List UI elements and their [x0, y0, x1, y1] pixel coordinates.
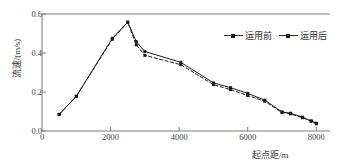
data-point-marker: [179, 63, 182, 66]
x-tick-label: 8000: [296, 132, 336, 142]
x-tick-label: 4000: [159, 132, 199, 142]
data-point-marker: [310, 120, 313, 123]
y-tick-label: 0.6: [20, 10, 42, 18]
x-axis-title: 起点距/m: [252, 148, 289, 161]
data-point-marker: [143, 54, 146, 57]
x-tick-label: 2000: [91, 132, 131, 142]
legend-item-after[interactable]: 运用后: [279, 29, 327, 42]
legend-label-before: 运用前: [245, 29, 272, 42]
legend-label-after: 运用后: [300, 29, 327, 42]
data-point-marker: [212, 83, 215, 86]
legend-item-before[interactable]: 运用前: [224, 29, 272, 42]
data-point-marker: [289, 112, 292, 115]
data-point-marker: [246, 94, 249, 97]
legend-marker-after-icon: [279, 35, 298, 36]
data-point-marker: [315, 122, 318, 125]
data-point-marker: [301, 116, 304, 119]
data-point-marker: [75, 95, 78, 98]
x-tick-label: 0: [22, 132, 62, 142]
data-point-marker: [111, 38, 114, 41]
x-tick-label: 6000: [228, 132, 268, 142]
data-point-marker: [263, 100, 266, 103]
data-point-marker: [281, 111, 284, 114]
x-axis-tick-labels: 02000400060008000: [0, 132, 337, 146]
y-tick-label: 0.2: [20, 88, 42, 96]
data-point-marker: [143, 50, 146, 53]
chart-figure: 0.00.20.40.6 02000400060008000 流速/(m/s) …: [0, 0, 337, 166]
data-point-marker: [58, 113, 61, 116]
legend-marker-before-icon: [224, 35, 243, 36]
y-axis-title: 流速/(m/s): [10, 14, 23, 104]
data-point-marker: [126, 21, 129, 24]
y-tick-label: 0.4: [20, 49, 42, 57]
data-point-marker: [229, 88, 232, 91]
chart-legend: 运用前 运用后: [224, 29, 327, 42]
data-point-marker: [135, 43, 138, 46]
